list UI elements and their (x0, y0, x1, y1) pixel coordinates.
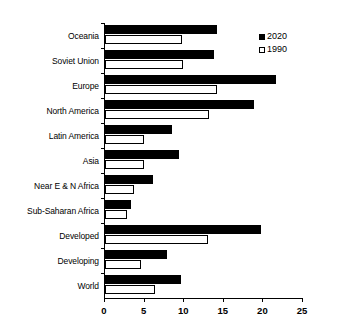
bar-2020 (105, 225, 261, 234)
bar-2020 (105, 50, 214, 59)
bar-group: Developing (104, 248, 302, 273)
bar-group: Asia (104, 148, 302, 173)
y-axis-tick (101, 48, 104, 49)
y-axis-tick (101, 148, 104, 149)
y-axis-tick (101, 198, 104, 199)
bar-2020 (105, 125, 172, 134)
x-axis-tick-label: 10 (178, 305, 189, 316)
y-axis-tick (101, 98, 104, 99)
y-axis-tick (101, 73, 104, 74)
bar-2020 (105, 100, 254, 109)
bar-group: Sub-Saharan Africa (104, 198, 302, 223)
bar-group: Near E & N Africa (104, 173, 302, 198)
bar-group: World (104, 273, 302, 298)
legend-label: 2020 (267, 31, 287, 42)
bar-chart: OceaniaSoviet UnionEuropeNorth AmericaLa… (0, 0, 337, 330)
category-label: Oceania (68, 31, 99, 41)
bar-1990 (105, 210, 127, 219)
bar-1990 (105, 260, 141, 269)
bar-1990 (105, 135, 144, 144)
bar-2020 (105, 200, 131, 209)
hollow-square-icon (259, 47, 265, 53)
y-axis-tick (101, 23, 104, 24)
y-axis-tick (101, 223, 104, 224)
category-label: North America (46, 106, 99, 116)
y-axis-tick (101, 248, 104, 249)
y-axis-tick (101, 273, 104, 274)
bar-1990 (105, 35, 182, 44)
bar-2020 (105, 250, 167, 259)
category-label: World (77, 281, 99, 291)
bar-1990 (105, 85, 217, 94)
legend-label: 1990 (267, 44, 287, 55)
x-axis-tick (302, 298, 303, 302)
x-axis-tick (262, 298, 263, 302)
x-axis-line (104, 298, 303, 299)
y-axis-tick (101, 173, 104, 174)
category-label: Asia (83, 156, 99, 166)
category-label: Sub-Saharan Africa (27, 206, 99, 216)
plot-area: OceaniaSoviet UnionEuropeNorth AmericaLa… (104, 23, 302, 298)
x-axis-tick (144, 298, 145, 302)
bar-2020 (105, 175, 153, 184)
x-axis-tick (223, 298, 224, 302)
x-axis-tick-label: 25 (297, 305, 308, 316)
bar-1990 (105, 185, 134, 194)
bar-group: Developed (104, 223, 302, 248)
x-axis-tick (183, 298, 184, 302)
x-axis-tick-label: 20 (257, 305, 268, 316)
x-axis-tick-label: 0 (101, 305, 106, 316)
x-axis-tick (104, 298, 105, 302)
bar-1990 (105, 60, 183, 69)
bar-group: Latin America (104, 123, 302, 148)
bar-1990 (105, 235, 208, 244)
bar-1990 (105, 285, 155, 294)
bar-2020 (105, 75, 276, 84)
category-label: Europe (72, 81, 99, 91)
bar-2020 (105, 150, 179, 159)
x-axis-tick-label: 5 (141, 305, 146, 316)
bar-2020 (105, 25, 217, 34)
bar-1990 (105, 160, 144, 169)
bar-2020 (105, 275, 181, 284)
category-label: Soviet Union (52, 56, 99, 66)
chart-legend: 20201990 (259, 31, 287, 57)
category-label: Developed (59, 231, 99, 241)
bar-group: North America (104, 98, 302, 123)
legend-entry: 1990 (259, 44, 287, 55)
y-axis-tick (101, 123, 104, 124)
bar-1990 (105, 110, 209, 119)
x-axis-tick-label: 15 (218, 305, 229, 316)
category-label: Near E & N Africa (34, 181, 99, 191)
bar-group: Europe (104, 73, 302, 98)
legend-entry: 2020 (259, 31, 287, 42)
category-label: Developing (57, 256, 99, 266)
category-label: Latin America (49, 131, 99, 141)
filled-square-icon (259, 34, 265, 40)
